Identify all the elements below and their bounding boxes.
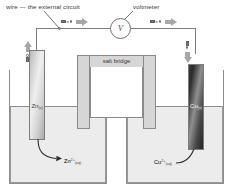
electron-symbol: e [155, 20, 157, 24]
salt-bridge-channel-edge-left [90, 67, 91, 118]
electron-block-icon [150, 20, 155, 23]
cell-diagram-canvas: wire — the external circuit voltmeter V … [0, 0, 233, 193]
copper-ion-label: Cu2+(aq) [154, 159, 172, 166]
electrode-zinc-label: Zn(s) [30, 103, 44, 111]
electron-charge-icon [159, 20, 162, 23]
electron-token-top-right: e [150, 20, 161, 24]
arrow-head-right-icon [171, 18, 177, 26]
electron-block-icon [186, 41, 189, 46]
wire-segment-top-left [36, 28, 110, 29]
electron-symbol: e [66, 20, 68, 24]
salt-bridge-label: salt bridge [77, 58, 156, 64]
salt-bridge-left-leg [77, 55, 90, 129]
voltmeter-annotation-label: voltmeter [133, 4, 159, 10]
electron-arrow-top-right [165, 18, 177, 26]
electron-block-icon [61, 20, 66, 23]
wire-segment-top-right [131, 28, 196, 29]
electron-charge-icon [70, 20, 73, 23]
zinc-dissolution-arrow [36, 139, 64, 163]
salt-bridge-channel-edge-right [142, 67, 143, 118]
electrode-zinc-anode[interactable]: Zn(s) [29, 50, 45, 140]
electron-token-right-vertical [186, 41, 189, 49]
wire-segment-right-vertical [195, 28, 196, 54]
voltmeter-symbol: V [118, 24, 123, 33]
salt-bridge-right-leg [143, 55, 156, 129]
electron-token-top-left: e [61, 20, 72, 24]
salt-bridge-channel-fill [91, 67, 142, 116]
electrode-copper-label: Cu(s) [189, 103, 203, 111]
wire-segment-left-vertical [36, 28, 37, 52]
electron-arrow-right-vertical [184, 52, 192, 63]
copper-deposition-arrow [175, 148, 197, 166]
zinc-ion-label: Zn2+(aq) [64, 158, 81, 165]
voltmeter[interactable]: V [110, 18, 131, 39]
wire-annotation-label: wire — the external circuit [6, 4, 80, 10]
arrow-head-down-icon [184, 57, 192, 63]
electron-charge-icon [186, 46, 189, 49]
electrode-copper-cathode[interactable]: Cu(s) [188, 64, 204, 150]
arrow-head-right-icon [82, 18, 88, 26]
electron-arrow-top-left [76, 18, 88, 26]
